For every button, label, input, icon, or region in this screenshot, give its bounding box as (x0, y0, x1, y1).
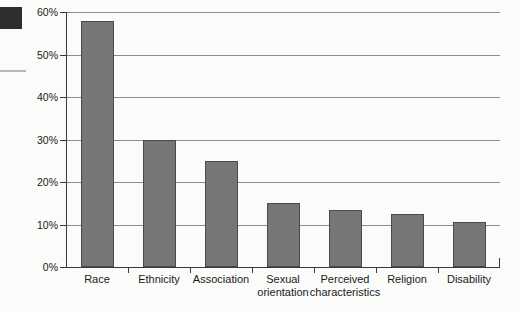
y-tick-label: 30% (2, 135, 58, 145)
bar-disability (453, 222, 486, 267)
bar-association (205, 161, 238, 267)
y-tick-label-wrap: 10% (0, 220, 58, 230)
y-tick-label-wrap: 40% (0, 92, 58, 102)
y-tick-label: 40% (2, 92, 58, 102)
gridline-20 (66, 182, 500, 183)
y-tick-label: 10% (2, 220, 58, 230)
bar-perceived-characteristics (329, 210, 362, 267)
y-tick-label-wrap: 50% (0, 50, 58, 60)
y-tick-label-wrap: 30% (0, 135, 58, 145)
y-tick-mark-0 (60, 267, 67, 268)
gridline-50 (66, 55, 500, 56)
y-tick-mark-50 (60, 55, 67, 56)
y-tick-label-wrap: 0% (0, 262, 58, 272)
bar-race (81, 21, 114, 268)
y-tick-mark-60 (60, 12, 67, 13)
y-tick-label: 60% (2, 7, 58, 17)
bar-religion (391, 214, 424, 267)
bar-sexual-orientation (267, 203, 300, 267)
x-axis-right-end-tick (499, 258, 500, 268)
y-tick-label-wrap: 20% (0, 177, 58, 187)
bar-ethnicity (143, 140, 176, 268)
y-tick-label-wrap: 60% (0, 7, 58, 17)
y-tick-mark-40 (60, 97, 67, 98)
bar-chart: 0%10%20%30%40%50%60% RaceEthnicityAssoci… (0, 0, 520, 311)
y-tick-mark-20 (60, 182, 67, 183)
gridline-30 (66, 140, 500, 141)
y-tick-mark-30 (60, 140, 67, 141)
gridline-60 (66, 12, 500, 13)
gridline-40 (66, 97, 500, 98)
x-axis-line (66, 267, 500, 268)
y-tick-label: 0% (2, 262, 58, 272)
x-label-disability: Disability (409, 273, 520, 286)
y-tick-label: 20% (2, 177, 58, 187)
y-tick-mark-10 (60, 225, 67, 226)
y-tick-label: 50% (2, 50, 58, 60)
